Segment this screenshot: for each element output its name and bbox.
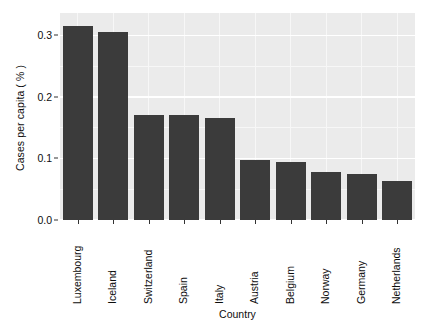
x-axis-tick-label: Germany — [356, 226, 367, 304]
bar[interactable] — [240, 160, 270, 220]
x-axis-tick-label: Belgium — [285, 226, 296, 304]
y-axis-tick-label: 0.1 — [26, 152, 52, 164]
x-axis-tick-label: Norway — [320, 226, 331, 304]
x-axis-tick-mark — [220, 220, 221, 224]
y-axis-tick-label: 0.3 — [26, 29, 52, 41]
bar[interactable] — [347, 174, 377, 220]
y-axis-tick-mark — [54, 158, 58, 159]
x-axis-tick-label: Italy — [214, 226, 225, 304]
bar[interactable] — [98, 32, 128, 220]
plot-panel — [60, 13, 415, 220]
x-axis-tick-label: Netherlands — [391, 226, 402, 304]
x-axis-tick-labels: LuxembourgIcelandSwitzerlandSpainItalyAu… — [60, 226, 415, 304]
bar[interactable] — [276, 162, 306, 220]
x-axis-tick-mark — [149, 220, 150, 224]
x-axis-tick-label: Iceland — [107, 226, 118, 304]
y-axis-tick-mark — [54, 35, 58, 36]
y-axis-tick-label: 0.0 — [26, 214, 52, 226]
bar[interactable] — [63, 26, 93, 220]
x-axis-tick-mark — [78, 220, 79, 224]
y-axis-tick-labels: 0.00.10.20.3 — [26, 0, 52, 331]
x-axis-tick-label: Austria — [249, 226, 260, 304]
x-axis-title: Country — [60, 308, 415, 320]
x-axis-tick-label: Luxembourg — [72, 226, 83, 304]
bar-chart: Cases per capita ( % ) 0.00.10.20.3 Luxe… — [0, 0, 435, 331]
x-axis-tick-mark — [184, 220, 185, 224]
x-axis-tick-mark — [291, 220, 292, 224]
x-axis-tick-label: Spain — [178, 226, 189, 304]
y-axis-tick-mark — [54, 96, 58, 97]
bar[interactable] — [205, 118, 235, 220]
x-axis-tick-mark — [397, 220, 398, 224]
x-axis-tick-marks — [60, 220, 415, 225]
bar[interactable] — [134, 115, 164, 220]
x-axis-tick-mark — [362, 220, 363, 224]
bar[interactable] — [311, 172, 341, 220]
y-axis-tick-mark — [54, 220, 58, 221]
bar[interactable] — [382, 181, 412, 220]
x-axis-tick-mark — [255, 220, 256, 224]
bar[interactable] — [169, 115, 199, 220]
x-axis-tick-mark — [326, 220, 327, 224]
x-axis-tick-mark — [113, 220, 114, 224]
y-axis-tick-label: 0.2 — [26, 91, 52, 103]
x-axis-tick-label: Switzerland — [143, 226, 154, 304]
